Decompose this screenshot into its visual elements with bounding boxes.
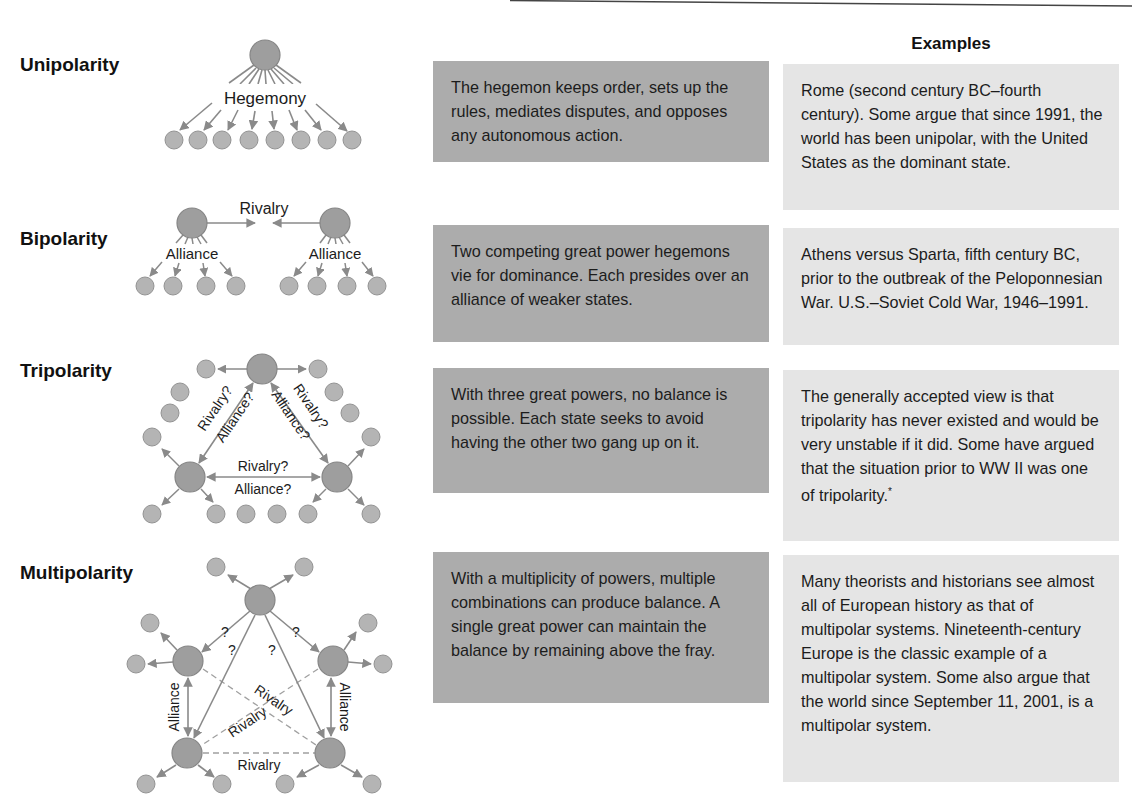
question-label-3: ? [228,642,236,658]
description-text: The hegemon keeps order, sets up the rul… [451,78,728,144]
tripolarity-diagram: Rivalry? Alliance? Rivalry? Alliance? Ri… [143,354,380,523]
example-text: The generally accepted view is that trip… [801,387,1099,504]
example-box-multipolarity: Many theorists and historians see almost… [783,555,1119,782]
hegemony-label: Hegemony [224,89,307,108]
footnote-marker: * [888,486,892,497]
question-label-4: ? [268,642,276,658]
description-box-unipolarity: The hegemon keeps order, sets up the rul… [433,61,769,162]
bottom-alliance-label: Alliance? [235,481,292,497]
alliance-label-right: Alliance [337,682,353,731]
example-box-tripolarity: The generally accepted view is that trip… [783,370,1119,541]
hegemon-node-right [320,208,350,238]
description-text: With three great powers, no balance is p… [451,385,727,451]
rivalry-label: Rivalry [240,200,289,217]
example-box-bipolarity: Athens versus Sparta, fifth century BC, … [783,228,1119,345]
example-box-unipolarity: Rome (second century BC–fourth century).… [783,64,1119,210]
question-label-1: ? [221,624,229,640]
alliance-label-left: Alliance [166,682,182,731]
alliance-label-left: Alliance [166,245,219,262]
hegemon-node [250,40,280,70]
bottom-rivalry-label: Rivalry? [238,458,289,474]
rivalry-cross-label-2: Rivalry [225,703,269,740]
examples-header: Examples [783,34,1119,54]
unipolarity-diagram: Hegemony [165,40,361,149]
description-box-tripolarity: With three great powers, no balance is p… [433,368,769,493]
multipolarity-diagram: ? ? ? ? Alliance Alliance Rivalry Rivalr… [127,558,392,793]
hegemon-node-left [177,208,207,238]
description-box-bipolarity: Two competing great power hegemons vie f… [433,225,769,342]
example-text: Athens versus Sparta, fifth century BC, … [801,245,1102,311]
example-text: Rome (second century BC–fourth century).… [801,81,1102,171]
bipolarity-diagram: Rivalry Alliance Alliance [136,200,386,295]
polarity-diagrams: Hegemony Rivalry [0,0,430,809]
description-text: With a multiplicity of powers, multiple … [451,569,719,659]
alliance-label-right: Alliance [309,245,362,262]
example-text: Many theorists and historians see almost… [801,572,1094,734]
question-label-2: ? [292,624,300,640]
description-text: Two competing great power hegemons vie f… [451,242,749,308]
rivalry-bottom-label: Rivalry [238,757,281,773]
description-box-multipolarity: With a multiplicity of powers, multiple … [433,552,769,703]
